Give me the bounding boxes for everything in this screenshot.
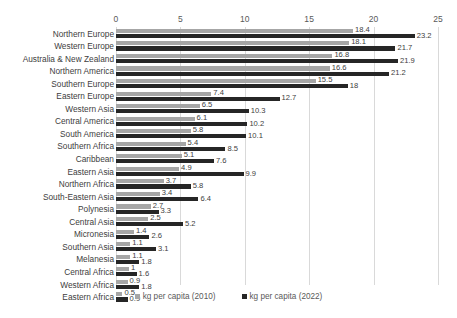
bar-2010 <box>116 142 186 146</box>
category-label: Northern Africa <box>59 179 114 189</box>
bar-2010 <box>116 129 191 133</box>
bar-value-2010: 0.9 <box>130 277 141 285</box>
x-axis-tick-0: 0 <box>114 14 119 24</box>
x-axis-tick-5: 5 <box>178 14 183 24</box>
bar-value-2010: 16.8 <box>334 51 349 59</box>
bar-2010 <box>116 117 195 121</box>
bar-value-2022: 5.8 <box>193 182 204 190</box>
bar-value-2022: 10.1 <box>248 132 263 140</box>
bar-value-2010: 6.5 <box>202 101 213 109</box>
bar-value-2022: 21.7 <box>397 44 412 52</box>
chart-category-row: Northern Africa3.75.8 <box>0 178 457 191</box>
chart-category-row: Melanesia1.11.8 <box>0 253 457 266</box>
category-label: South America <box>60 129 114 139</box>
bar-2010 <box>116 179 164 183</box>
bar-value-2022: 21.9 <box>400 57 415 65</box>
bar-value-2010: 1.4 <box>136 227 147 235</box>
bar-chart: 0510152025 Northern Europe18.423.2Wester… <box>0 0 457 318</box>
category-label: Western Africa <box>60 280 114 290</box>
bar-2022 <box>116 184 191 188</box>
category-label: Southern Europe <box>51 79 114 89</box>
chart-category-row: Southern Asia1.13.1 <box>0 241 457 254</box>
bar-2010 <box>116 242 130 246</box>
bar-value-2022: 5.2 <box>185 220 196 228</box>
bar-2022 <box>116 159 214 163</box>
chart-category-row: South America5.810.1 <box>0 128 457 141</box>
bar-2022 <box>116 84 348 88</box>
category-label: South-Eastern Asia <box>43 192 114 202</box>
bar-value-2022: 1.8 <box>141 258 152 266</box>
bar-value-2022: 21.2 <box>391 69 406 77</box>
bar-2022 <box>116 34 415 38</box>
bar-2010 <box>116 204 151 208</box>
bar-value-2010: 18.4 <box>355 26 370 34</box>
bar-2010 <box>116 66 330 70</box>
bar-value-2010: 5.8 <box>193 126 204 134</box>
bar-2010 <box>116 192 160 196</box>
category-label: Southern Asia <box>62 242 114 252</box>
bar-2022 <box>116 222 183 226</box>
bar-value-2010: 18.1 <box>351 38 366 46</box>
bar-2022 <box>116 134 246 138</box>
bar-2010 <box>116 280 128 284</box>
chart-category-row: Southern Africa5.48.5 <box>0 140 457 153</box>
category-label: Central Africa <box>64 267 114 277</box>
bar-2010 <box>116 255 130 259</box>
bar-2010 <box>116 217 148 221</box>
bar-value-2022: 12.7 <box>282 94 297 102</box>
x-axis-tick-15: 15 <box>304 14 314 24</box>
bar-value-2022: 23.2 <box>417 32 432 40</box>
bar-value-2010: 6.1 <box>197 114 208 122</box>
bar-value-2022: 2.6 <box>151 232 162 240</box>
bar-2022 <box>116 147 225 151</box>
legend-swatch-icon <box>135 294 140 299</box>
bar-value-2010: 2.5 <box>150 214 161 222</box>
chart-category-row: Central Africa11.6 <box>0 266 457 279</box>
category-label: Central America <box>55 116 114 126</box>
x-axis-tick-20: 20 <box>369 14 379 24</box>
category-label: Western Asia <box>65 104 114 114</box>
bar-value-2010: 16.6 <box>332 64 347 72</box>
category-label: Central Asia <box>69 217 114 227</box>
bar-value-2010: 3.7 <box>166 177 177 185</box>
category-label: Northern Europe <box>53 29 114 39</box>
bar-2022 <box>116 97 280 101</box>
bar-value-2022: 1.8 <box>141 283 152 291</box>
bar-2010 <box>116 154 182 158</box>
chart-category-row: Central Asia2.55.2 <box>0 216 457 229</box>
chart-legend: kg per capita (2010)kg per capita (2022) <box>0 292 457 301</box>
category-label: Western Europe <box>54 41 114 51</box>
bar-2010 <box>116 41 349 45</box>
bar-value-2022: 9.9 <box>246 170 257 178</box>
legend-swatch-icon <box>242 294 247 299</box>
category-label: Northern America <box>49 66 114 76</box>
bar-2010 <box>116 54 332 58</box>
category-label: Melanesia <box>76 254 114 264</box>
category-label: Caribbean <box>76 154 114 164</box>
category-label: Eastern Asia <box>67 167 114 177</box>
x-axis-tick-10: 10 <box>240 14 250 24</box>
chart-category-row: Western Asia6.510.3 <box>0 103 457 116</box>
bar-value-2022: 1.6 <box>139 270 150 278</box>
bar-2022 <box>116 59 398 63</box>
bar-value-2022: 10.3 <box>251 107 266 115</box>
bar-2010 <box>116 92 211 96</box>
bar-2022 <box>116 172 244 176</box>
legend-item-2022[interactable]: kg per capita (2022) <box>242 292 323 301</box>
legend-label: kg per capita (2022) <box>250 292 323 301</box>
bar-value-2010: 1 <box>131 264 135 272</box>
chart-category-row: Western Africa0.91.8 <box>0 279 457 292</box>
x-axis-tick-labels: 0510152025 <box>0 14 457 28</box>
chart-category-row: Micronesia1.42.6 <box>0 228 457 241</box>
chart-category-row: Eastern Europe7.412.7 <box>0 90 457 103</box>
chart-category-row: Western Europe18.121.7 <box>0 40 457 53</box>
category-label: Polynesia <box>78 204 114 214</box>
bar-2010 <box>116 104 200 108</box>
bar-2010 <box>116 167 179 171</box>
legend-item-2010[interactable]: kg per capita (2010) <box>135 292 216 301</box>
bar-value-2010: 3.4 <box>162 189 173 197</box>
bar-value-2022: 10.2 <box>249 120 264 128</box>
bar-value-2022: 3.3 <box>161 207 172 215</box>
legend-label: kg per capita (2010) <box>143 292 216 301</box>
bar-2010 <box>116 230 134 234</box>
